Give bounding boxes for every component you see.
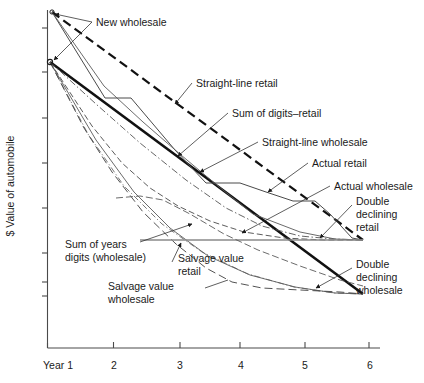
label-straight-line-retail: Straight-line retail <box>196 77 278 89</box>
depreciation-line-chart: Year 1 2 3 4 5 6 $ Value of automobile <box>0 0 424 383</box>
x-tick-label-6: 6 <box>367 359 373 371</box>
leader-new-wholesale-b <box>54 22 92 60</box>
label-salvage-value-retail-line1: Salvage value <box>178 252 244 264</box>
x-tick-label-4: 4 <box>238 359 244 371</box>
label-double-declining-retail-line2: declining <box>356 208 398 220</box>
leader-straight-line-retail <box>175 83 192 104</box>
leader-sum-of-digits-retail <box>178 113 228 156</box>
label-straight-line-wholesale: Straight-line wholesale <box>262 136 368 148</box>
label-sum-of-digits-retail: Sum of digits–retail <box>232 107 321 119</box>
y-axis-ticks <box>42 28 48 296</box>
x-tick-label-2: 2 <box>111 359 117 371</box>
label-double-declining-retail-line1: Double <box>356 195 389 207</box>
y-axis-title: $ Value of automobile <box>4 135 16 236</box>
chart-figure: Year 1 2 3 4 5 6 $ Value of automobile <box>0 0 424 383</box>
label-actual-retail: Actual retail <box>312 157 367 169</box>
label-double-declining-wholesale-line3: wholesale <box>355 284 403 296</box>
x-tick-label-5: 5 <box>302 359 308 371</box>
leader-actual-retail <box>268 163 308 192</box>
x-tick-label-3: 3 <box>177 359 183 371</box>
series-actual-wholesale-lower-branch <box>116 196 363 286</box>
label-salvage-value-retail-line2: retail <box>178 265 201 277</box>
leader-actual-wholesale <box>242 186 330 233</box>
label-double-declining-retail-line3: retail <box>356 221 379 233</box>
label-salvage-value-wholesale-line2: wholesale <box>107 293 155 305</box>
label-double-declining-wholesale-line2: declining <box>356 271 398 283</box>
label-salvage-value-wholesale-line1: Salvage value <box>108 280 174 292</box>
leader-salvage-value-wholesale <box>205 280 228 288</box>
label-actual-wholesale: Actual wholesale <box>334 180 413 192</box>
x-axis-ticks <box>48 342 370 348</box>
annotation-labels-group: New wholesale Straight-line retail Sum o… <box>65 16 413 305</box>
label-sum-of-years-digits-line1: Sum of years <box>65 238 127 250</box>
label-new-wholesale: New wholesale <box>96 16 167 28</box>
label-sum-of-years-digits-line2: digits (wholesale) <box>65 251 146 263</box>
leader-new-wholesale-a <box>55 14 92 22</box>
series-straight-line-retail <box>52 12 363 240</box>
label-double-declining-wholesale-line1: Double <box>356 258 389 270</box>
axes-group: Year 1 2 3 4 5 6 $ Value of automobile <box>4 10 380 371</box>
x-tick-label-1: Year 1 <box>43 359 73 371</box>
